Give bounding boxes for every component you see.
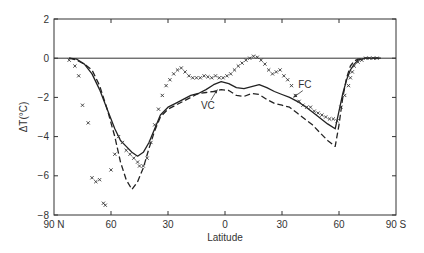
y-tick-label: 0 — [43, 53, 49, 64]
x-tick-label: 60 — [105, 219, 117, 230]
x-tick-label: 60 — [333, 219, 345, 230]
curve-label-fc: FC — [298, 79, 311, 90]
chart: 90 N60300306090 S 20−2−4−6−8 FCVC Latitu… — [0, 0, 424, 253]
x-tick-label: 90 S — [386, 219, 407, 230]
curve-label-vc: VC — [201, 100, 215, 111]
x-axis: 90 N60300306090 S — [43, 19, 406, 230]
y-tick-label: −4 — [38, 131, 50, 142]
series-layer — [68, 55, 381, 207]
y-axis-title: ΔT(°C) — [18, 102, 29, 133]
vc-curve — [69, 58, 381, 189]
y-tick-label: −2 — [38, 92, 50, 103]
y-tick-label: −6 — [38, 170, 50, 181]
x-tick-label: 30 — [162, 219, 174, 230]
x-axis-title: Latitude — [207, 232, 243, 243]
y-axis: 20−2−4−6−8 — [38, 14, 396, 221]
y-tick-label: 2 — [43, 14, 49, 25]
x-tick-label: 0 — [222, 219, 228, 230]
plot-frame — [54, 19, 396, 215]
y-tick-label: −8 — [38, 210, 50, 221]
x-tick-label: 30 — [276, 219, 288, 230]
x-tick-label: 90 N — [43, 219, 64, 230]
observed-markers — [68, 55, 379, 207]
